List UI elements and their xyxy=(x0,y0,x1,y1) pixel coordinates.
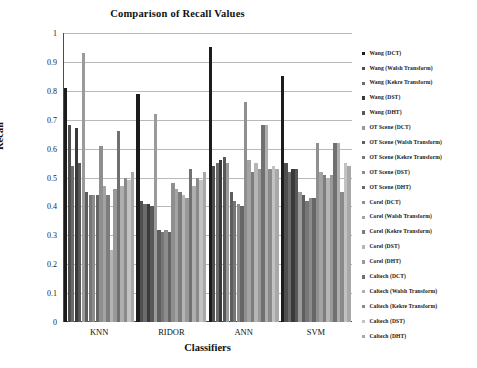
legend-swatch-icon xyxy=(362,96,365,99)
legend-swatch-icon xyxy=(362,335,365,338)
bar[interactable] xyxy=(203,172,206,322)
y-axis-tick-label: 0.5 xyxy=(31,173,57,182)
bar-group xyxy=(208,33,280,322)
legend-label: Corel (Walsh Transform) xyxy=(369,214,432,220)
y-axis-tick-label: 0 xyxy=(31,318,57,327)
x-axis-tick-label: KNN xyxy=(90,327,108,337)
legend-swatch-icon xyxy=(362,82,365,85)
recall-bar-chart: Comparison of Recall Values Recall 00.10… xyxy=(0,0,477,368)
legend-item[interactable]: Caltech (DCT) xyxy=(362,269,477,284)
legend-label: Wang (Kekre Transform) xyxy=(369,80,432,86)
legend-label: Corel (Kekre Transform) xyxy=(369,229,431,235)
legend-item[interactable]: Corel (Walsh Transform) xyxy=(362,210,477,225)
legend-label: OT Scene (DST) xyxy=(369,170,409,176)
legend-label: OT Scene (DCT) xyxy=(369,125,410,131)
legend-item[interactable]: Wang (Kekre Transform) xyxy=(362,76,477,91)
legend-item[interactable]: Caltech (DHT) xyxy=(362,329,477,344)
legend-label: Caltech (DHT) xyxy=(369,334,406,340)
chart-title: Comparison of Recall Values xyxy=(0,8,355,19)
legend-label: Corel (DST) xyxy=(369,244,399,250)
legend-item[interactable]: Caltech (Walsh Transform) xyxy=(362,284,477,299)
y-axis-tick-label: 0.6 xyxy=(31,144,57,153)
y-axis-label: Recall xyxy=(0,122,5,150)
legend-item[interactable]: Wang (DST) xyxy=(362,91,477,106)
legend-label: Caltech (DST) xyxy=(369,319,405,325)
legend-swatch-icon xyxy=(362,201,365,204)
legend-item[interactable]: OT Scene (Walsh Transform) xyxy=(362,135,477,150)
legend-item[interactable]: Wang (Walsh Transform) xyxy=(362,61,477,76)
legend-swatch-icon xyxy=(362,290,365,293)
legend-label: Caltech (DCT) xyxy=(369,274,406,280)
legend-item[interactable]: Corel (DST) xyxy=(362,240,477,255)
legend-swatch-icon xyxy=(362,320,365,323)
legend-swatch-icon xyxy=(362,216,365,219)
chart-legend: Wang (DCT)Wang (Walsh Transform)Wang (Ke… xyxy=(362,46,477,344)
legend-swatch-icon xyxy=(362,111,365,114)
legend-item[interactable]: Corel (DCT) xyxy=(362,195,477,210)
y-axis-tick-label: 0.1 xyxy=(31,289,57,298)
legend-swatch-icon xyxy=(362,52,365,55)
y-axis-tick-label: 1 xyxy=(31,29,57,38)
bar-group xyxy=(135,33,207,322)
legend-item[interactable]: OT Scene (DHT) xyxy=(362,180,477,195)
legend-swatch-icon xyxy=(362,275,365,278)
legend-label: Caltech (Kekre Transform) xyxy=(369,304,437,310)
x-axis-tick-label: SVM xyxy=(307,327,325,337)
legend-item[interactable]: OT Scene (DST) xyxy=(362,165,477,180)
legend-item[interactable]: Caltech (DST) xyxy=(362,314,477,329)
bar[interactable] xyxy=(275,169,278,322)
legend-item[interactable]: OT Scene (Kekre Transform) xyxy=(362,150,477,165)
legend-label: Wang (DHT) xyxy=(369,110,401,116)
legend-label: Corel (DHT) xyxy=(369,259,401,265)
y-axis-tick-label: 0.3 xyxy=(31,231,57,240)
legend-label: Caltech (Walsh Transform) xyxy=(369,289,437,295)
bar-group xyxy=(63,33,135,322)
legend-swatch-icon xyxy=(362,67,365,70)
legend-item[interactable]: Wang (DHT) xyxy=(362,106,477,121)
y-axis-tick-label: 0.9 xyxy=(31,57,57,66)
legend-label: Corel (DCT) xyxy=(369,200,400,206)
legend-swatch-icon xyxy=(362,126,365,129)
x-axis-tick-label: RIDOR xyxy=(158,327,184,337)
y-axis-tick-label: 0.4 xyxy=(31,202,57,211)
bars-layer xyxy=(63,33,352,322)
legend-swatch-icon xyxy=(362,245,365,248)
legend-label: Wang (DST) xyxy=(369,95,400,101)
legend-item[interactable]: Wang (DCT) xyxy=(362,46,477,61)
y-axis-tick-label: 0.2 xyxy=(31,260,57,269)
legend-label: Wang (Walsh Transform) xyxy=(369,66,432,72)
legend-swatch-icon xyxy=(362,260,365,263)
legend-label: OT Scene (Kekre Transform) xyxy=(369,155,442,161)
legend-label: Wang (DCT) xyxy=(369,51,401,57)
legend-swatch-icon xyxy=(362,156,365,159)
legend-item[interactable]: Caltech (Kekre Transform) xyxy=(362,299,477,314)
x-axis-tick-label: ANN xyxy=(234,327,252,337)
bar-group xyxy=(280,33,352,322)
x-axis-label: Classifiers xyxy=(63,342,352,353)
y-axis-tick-label: 0.8 xyxy=(31,86,57,95)
legend-item[interactable]: Corel (Kekre Transform) xyxy=(362,225,477,240)
legend-swatch-icon xyxy=(362,141,365,144)
legend-label: OT Scene (Walsh Transform) xyxy=(369,140,442,146)
legend-label: OT Scene (DHT) xyxy=(369,185,411,191)
y-axis-tick-label: 0.7 xyxy=(31,115,57,124)
legend-item[interactable]: OT Scene (DCT) xyxy=(362,120,477,135)
legend-swatch-icon xyxy=(362,186,365,189)
bar[interactable] xyxy=(131,172,134,322)
bar[interactable] xyxy=(347,166,350,322)
legend-swatch-icon xyxy=(362,171,365,174)
legend-swatch-icon xyxy=(362,305,365,308)
legend-item[interactable]: Corel (DHT) xyxy=(362,254,477,269)
legend-swatch-icon xyxy=(362,230,365,233)
